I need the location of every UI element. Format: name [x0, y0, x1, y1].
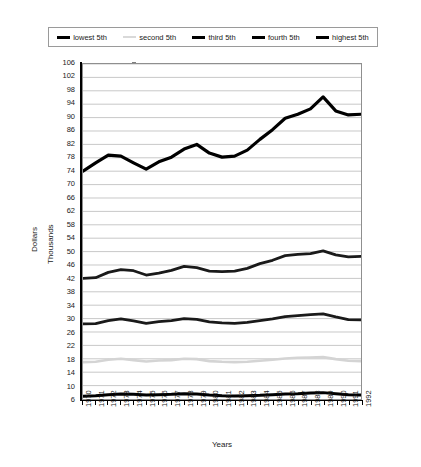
x-axis-tick-mark — [197, 400, 198, 405]
y-axis-tick-label: 70 — [67, 180, 75, 188]
y-axis-tick-label: 66 — [67, 194, 75, 202]
legend-swatch-icon — [316, 36, 329, 39]
legend-swatch-icon — [192, 36, 205, 39]
legend-item-fourth-5th[interactable]: fourth 5th — [252, 33, 300, 42]
x-axis-tick-label: 1984 — [263, 390, 271, 407]
legend-item-highest-5th[interactable]: highest 5th — [316, 33, 369, 42]
x-axis-tick-mark — [184, 400, 185, 405]
legend-label: third 5th — [208, 33, 235, 42]
x-axis-tick-label: 1974 — [136, 390, 144, 407]
legend-item-lowest-5th[interactable]: lowest 5th — [57, 33, 107, 42]
x-axis-tick-label: 1976 — [161, 390, 169, 407]
x-axis-title: Years — [82, 440, 362, 449]
y-axis-tick-label: 86 — [67, 126, 75, 134]
legend-label: fourth 5th — [268, 33, 300, 42]
y-axis-tick-label: 82 — [67, 140, 75, 148]
x-axis-tick-labels: 1970197119721973197419751976197719781979… — [82, 400, 362, 445]
legend-swatch-icon — [57, 36, 70, 39]
x-axis-tick-mark — [273, 400, 274, 405]
x-axis-tick-mark — [324, 400, 325, 405]
x-axis-tick-label: 1970 — [85, 390, 93, 407]
x-axis-tick-mark — [95, 400, 96, 405]
plot-area — [82, 63, 362, 400]
y-axis-tick-label: 78 — [67, 153, 75, 161]
legend-label: lowest 5th — [73, 33, 107, 42]
x-axis-tick-label: 1988 — [314, 390, 322, 407]
x-axis-tick-mark — [235, 400, 236, 405]
y-axis-tick-label: 102 — [62, 72, 75, 80]
legend-item-second-5th[interactable]: second 5th — [123, 33, 176, 42]
series-line-highest-5th — [83, 97, 361, 171]
legend-swatch-icon — [123, 36, 136, 38]
series-line-fourth-5th — [83, 251, 361, 278]
x-axis-tick-mark — [337, 400, 338, 405]
legend-label: highest 5th — [332, 33, 369, 42]
x-axis-tick-label: 1978 — [187, 390, 195, 407]
x-axis-tick-mark — [286, 400, 287, 405]
x-axis-tick-mark — [171, 400, 172, 405]
y-axis-tick-label: 14 — [67, 369, 75, 377]
y-axis-tick-label: 22 — [67, 342, 75, 350]
x-axis-tick-label: 1983 — [250, 390, 258, 407]
y-axis-tick-label: 42 — [67, 275, 75, 283]
y-axis-tick-label: 38 — [67, 288, 75, 296]
x-axis-tick-label: 1989 — [327, 390, 335, 407]
line-chart: lowest 5thsecond 5ththird 5thfourth 5thh… — [0, 0, 421, 467]
x-axis-tick-mark — [311, 400, 312, 405]
x-axis-tick-mark — [146, 400, 147, 405]
y-axis-tick-label: 94 — [67, 99, 75, 107]
y-axis-tick-label: 6 — [71, 396, 75, 404]
y-axis-tick-label: 58 — [67, 221, 75, 229]
x-axis-tick-label: 1975 — [149, 390, 157, 407]
x-axis-tick-mark — [133, 400, 134, 405]
y-axis-tick-label: 34 — [67, 302, 75, 310]
series-line-second-5th — [83, 357, 361, 362]
series-line-third-5th — [83, 314, 361, 324]
y-axis-tick-label: 54 — [67, 234, 75, 242]
x-axis-tick-label: 1990 — [340, 390, 348, 407]
x-axis-tick-label: 1987 — [301, 390, 309, 407]
y-axis-tick-labels: 6101418222630343842465054586266707478828… — [52, 63, 80, 400]
y-axis-tick-label: 90 — [67, 113, 75, 121]
legend-item-third-5th[interactable]: third 5th — [192, 33, 235, 42]
x-axis-tick-mark — [82, 400, 83, 405]
legend-label: second 5th — [139, 33, 176, 42]
y-axis-tick-label: 46 — [67, 261, 75, 269]
legend-swatch-icon — [252, 36, 265, 39]
y-axis-tick-label: 26 — [67, 329, 75, 337]
y-axis-tick-label: 106 — [62, 59, 75, 67]
chart-legend: lowest 5thsecond 5ththird 5thfourth 5thh… — [48, 27, 378, 47]
y-axis-title-line-dollars: Dollars — [30, 227, 39, 252]
x-axis-tick-label: 1972 — [110, 390, 118, 407]
y-axis-tick-label: 30 — [67, 315, 75, 323]
x-axis-tick-label: 1991 — [352, 390, 360, 407]
x-axis-tick-label: 1981 — [225, 390, 233, 407]
y-axis-tick-label: 98 — [67, 86, 75, 94]
x-axis-tick-label: 1985 — [276, 390, 284, 407]
y-axis-tick-label: 18 — [67, 356, 75, 364]
x-axis-tick-mark — [362, 400, 363, 405]
y-axis-tick-label: 50 — [67, 248, 75, 256]
y-axis-tick-label: 62 — [67, 207, 75, 215]
y-axis-tick-label: 74 — [67, 167, 75, 175]
x-axis-tick-label: 1992 — [365, 390, 373, 407]
x-axis-tick-label: 1980 — [212, 390, 220, 407]
x-axis-tick-label: 1977 — [174, 390, 182, 407]
x-axis-tick-mark — [222, 400, 223, 405]
x-axis-tick-label: 1971 — [98, 390, 106, 407]
x-axis-tick-label: 1973 — [123, 390, 131, 407]
x-axis-tick-label: 1979 — [200, 390, 208, 407]
data-series-layer — [83, 64, 361, 399]
x-axis-tick-label: 1986 — [289, 390, 297, 407]
y-axis-tick-label: 10 — [67, 383, 75, 391]
x-axis-tick-label: 1982 — [238, 390, 246, 407]
